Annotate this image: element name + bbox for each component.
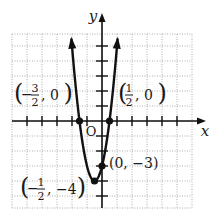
label-numerator: 1	[126, 82, 133, 95]
label-close-paren: )	[158, 79, 167, 107]
y-axis-label: y	[88, 7, 98, 25]
label-tail: , −4	[47, 181, 77, 197]
x-axis-label: x	[201, 122, 210, 140]
label-tail: , 0	[135, 87, 153, 103]
point-marker	[106, 117, 113, 124]
label-close-paren: )	[77, 173, 86, 201]
point-labels: (−32, 0)(12, 0)(0, −3)(−12, −4)	[14, 79, 167, 203]
label-point-one-half: (12, 0)	[118, 79, 167, 109]
parabola-graph: xyO (−32, 0)(12, 0)(0, −3)(−12, −4)	[0, 0, 217, 220]
point-marker	[98, 162, 105, 169]
label-denominator: 2	[32, 96, 39, 109]
label-point-vertex: (−12, −4)	[20, 173, 86, 203]
label-denominator: 2	[38, 190, 45, 203]
label-denominator: 2	[126, 96, 133, 109]
label-numerator: 3	[32, 82, 39, 95]
label-point-y-intercept: (0, −3)	[109, 155, 158, 171]
y-axis-arrow-icon	[99, 13, 106, 22]
point-marker	[91, 177, 98, 184]
label-tail: , 0	[41, 87, 59, 103]
curve-left-arrow-icon	[68, 37, 76, 49]
label-point-neg-three-halves: (−32, 0)	[14, 79, 73, 109]
curve-right-arrow-icon	[113, 37, 121, 49]
label-close-paren: )	[64, 79, 73, 107]
point-marker	[76, 117, 83, 124]
origin-label: O	[86, 124, 97, 139]
label-numerator: 1	[38, 176, 45, 189]
